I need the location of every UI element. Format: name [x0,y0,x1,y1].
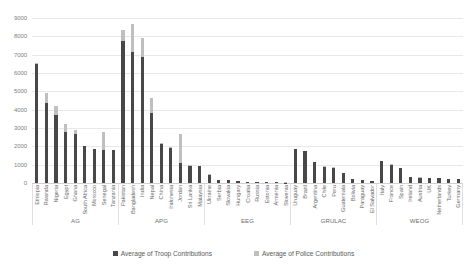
bar-stack[interactable] [370,181,373,183]
bar-stack[interactable] [275,182,278,183]
bar-stack[interactable] [131,24,134,183]
legend-item[interactable]: Average of Police Contributions [254,250,354,257]
bar-slot [348,18,358,183]
bar-stack[interactable] [246,182,249,183]
x-axis-group: WEOG [376,184,463,225]
bar-stack[interactable] [236,181,239,183]
y-axis-tick-label: 3000 [14,125,27,131]
bar-slot [444,18,454,183]
bar-stack[interactable] [399,168,402,183]
bar-segment-troop [457,179,460,183]
bar-segment-troop [255,182,258,183]
bar-slot [166,18,176,183]
bar-slot [243,18,253,183]
bar-stack[interactable] [150,98,153,183]
bar-segment-troop [188,166,191,183]
bar-stack[interactable] [409,177,412,183]
bar-stack[interactable] [74,130,77,183]
bar-slot [128,18,138,183]
bar-stack[interactable] [447,179,450,183]
bar-stack[interactable] [208,174,211,183]
bar-stack[interactable] [332,167,335,183]
bar-segment-troop [313,162,316,183]
bar-stack[interactable] [93,149,96,183]
x-axis-group: EEG [204,184,290,225]
bar-stack[interactable] [265,182,268,183]
legend-label: Average of Police Contributions [262,250,354,257]
y-axis-tick-label: 0 [24,180,27,186]
bar-stack[interactable] [102,132,105,183]
bar-stack[interactable] [418,177,421,183]
bar-stack[interactable] [160,143,163,183]
bar-segment-troop [93,149,96,183]
bar-stack[interactable] [198,166,201,183]
bar-stack[interactable] [284,182,287,183]
bar-stack[interactable] [188,165,191,183]
bar-slot [118,18,128,183]
bar-segment-troop [303,151,306,183]
bar-stack[interactable] [342,173,345,183]
bar-slot [415,18,425,183]
bar-slot [310,18,320,183]
bar-stack[interactable] [83,146,86,183]
bar-stack[interactable] [351,179,354,183]
x-axis-group: APG [118,184,204,225]
bar-slot [271,18,281,183]
bar-segment-troop [323,167,326,184]
bar-stack[interactable] [217,180,220,183]
bar-stack[interactable] [437,178,440,183]
bar-segment-troop [390,165,393,183]
bars-container [32,18,463,183]
legend-label: Average of Troop Contributions [121,250,212,257]
bar-segment-troop [437,178,440,183]
bar-stack[interactable] [169,147,172,183]
y-axis: 0100020003000400050006000700080009000 [0,18,30,183]
bar-slot [300,18,310,183]
y-axis-tick-label: 6000 [14,70,27,76]
y-axis-tick-label: 7000 [14,52,27,58]
bar-stack[interactable] [457,179,460,183]
bar-segment-troop [428,178,431,183]
bar-slot [32,18,42,183]
bar-stack[interactable] [380,161,383,183]
bar-slot [319,18,329,183]
bar-stack[interactable] [361,180,364,183]
bar-segment-troop [160,144,163,183]
bar-stack[interactable] [54,106,57,183]
bar-stack[interactable] [255,182,258,183]
bar-stack[interactable] [390,164,393,183]
bar-segment-police [131,24,134,52]
bar-segment-police [64,124,67,131]
bar-stack[interactable] [313,162,316,183]
bar-stack[interactable] [45,93,48,183]
bar-slot [358,18,368,183]
bar-slot [377,18,387,183]
bar-segment-troop [35,64,38,183]
bar-slot [61,18,71,183]
bar-segment-troop [131,52,134,183]
bar-stack[interactable] [121,30,124,183]
bar-slot [281,18,291,183]
bar-segment-troop [342,173,345,183]
bar-segment-police [141,38,144,57]
bar-stack[interactable] [141,38,144,183]
legend-item[interactable]: Average of Troop Contributions [113,250,212,257]
bar-slot [195,18,205,183]
bar-segment-troop [370,181,373,183]
bar-stack[interactable] [112,150,115,183]
bar-stack[interactable] [64,124,67,183]
x-axis-group-label: AG [33,218,118,225]
bar-stack[interactable] [179,134,182,183]
bar-segment-police [45,93,48,103]
bar-stack[interactable] [428,178,431,183]
bar-stack[interactable] [227,180,230,183]
bar-stack[interactable] [323,166,326,183]
bar-slot [89,18,99,183]
bar-segment-troop [141,57,144,184]
bar-segment-troop [74,134,77,183]
bar-segment-troop [380,161,383,183]
bar-stack[interactable] [294,149,297,183]
bar-stack[interactable] [35,63,38,183]
bar-segment-troop [236,181,239,183]
bar-stack[interactable] [303,151,306,183]
